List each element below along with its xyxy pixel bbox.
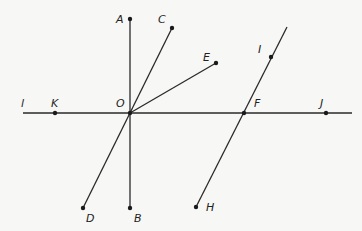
point-a-dot [128, 17, 132, 21]
point-o-label: O [116, 97, 125, 110]
point-h-label: H [206, 201, 214, 214]
point-j-label: J [318, 97, 323, 110]
geometry-diagram: lACEIKOFJDBH [0, 0, 362, 231]
point-h-dot [194, 205, 198, 209]
point-d-label: D [86, 212, 94, 225]
point-o-dot [128, 111, 132, 115]
point-k-dot [53, 111, 57, 115]
point-f-label: F [254, 97, 261, 110]
line-l-label: l [21, 97, 24, 110]
point-i-dot [269, 55, 273, 59]
point-k-label: K [51, 97, 59, 110]
point-f-dot [242, 111, 246, 115]
point-i-label: I [258, 43, 261, 56]
segment-CD [83, 28, 172, 208]
point-e-dot [214, 61, 218, 65]
point-c-dot [170, 26, 174, 30]
point-c-label: C [158, 13, 166, 26]
point-a-label: A [115, 13, 124, 26]
point-b-dot [128, 206, 132, 210]
point-b-label: B [134, 212, 142, 225]
point-j-dot [324, 111, 328, 115]
point-e-label: E [203, 51, 210, 64]
point-d-dot [81, 206, 85, 210]
